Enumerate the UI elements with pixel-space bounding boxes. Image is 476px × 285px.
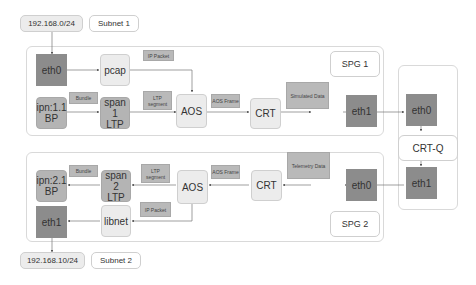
spg2-ltp-line1: span 2 bbox=[102, 170, 130, 192]
spg1-ltp-line2: LTP bbox=[106, 119, 124, 130]
spg1-bp[interactable]: ipn:1.1 BP bbox=[36, 97, 67, 129]
subnet2-ip-tag: 192.168.10/24 bbox=[20, 252, 85, 269]
spg2-ltp-segment-label: LTP segment bbox=[141, 164, 170, 183]
spg2-eth1[interactable]: eth1 bbox=[36, 206, 67, 238]
spg2-aos-frame-label: AOS Frame bbox=[211, 165, 240, 179]
spg1-ip-packet-label: IP Packet bbox=[143, 50, 174, 61]
spg2-aos[interactable]: AOS bbox=[177, 170, 208, 204]
spg2-ltp[interactable]: span 2 LTP bbox=[101, 170, 131, 202]
subnet1-ip-tag: 192.168.0/24 bbox=[20, 15, 83, 32]
spg1-ltp[interactable]: span 1 LTP bbox=[100, 97, 130, 129]
spg1-title: SPG 1 bbox=[330, 51, 380, 77]
spg1-bundle-label: Bundle bbox=[69, 92, 98, 104]
spg2-ip-packet-label: IP Packet bbox=[140, 202, 171, 217]
spg1-eth0[interactable]: eth0 bbox=[36, 54, 67, 86]
spg1-bp-line1: ipn:1.1 bbox=[36, 102, 66, 113]
spg2-crt[interactable]: CRT bbox=[251, 170, 282, 201]
spg1-ltp-line1: span 1 bbox=[101, 97, 129, 119]
crtq-eth1[interactable]: eth1 bbox=[406, 167, 437, 199]
spg2-title: SPG 2 bbox=[330, 211, 380, 237]
subnet1-name-tag: Subnet 1 bbox=[89, 15, 139, 32]
spg2-bundle-label: Bundle bbox=[69, 165, 98, 177]
spg1-pcap[interactable]: pcap bbox=[100, 54, 130, 86]
spg1-ltp-segment-label: LTP segment bbox=[143, 91, 172, 110]
crtq-node[interactable]: CRT-Q bbox=[398, 135, 458, 161]
spg2-bp[interactable]: ipn:2.1 BP bbox=[36, 170, 67, 202]
spg1-aos-frame-label: AOS Frame bbox=[211, 94, 240, 108]
spg1-bp-line2: BP bbox=[45, 113, 58, 124]
spg1-crt[interactable]: CRT bbox=[250, 98, 281, 129]
spg2-bp-line2: BP bbox=[45, 186, 58, 197]
spg2-telemetry-data-label: Telemetry Data bbox=[287, 152, 330, 179]
spg2-eth0[interactable]: eth0 bbox=[346, 169, 377, 201]
spg1-aos[interactable]: AOS bbox=[176, 94, 207, 128]
crtq-eth0[interactable]: eth0 bbox=[406, 94, 437, 126]
spg2-libnet[interactable]: libnet bbox=[101, 205, 131, 237]
subnet2-name-tag: Subnet 2 bbox=[91, 252, 141, 269]
spg2-bp-line1: ipn:2.1 bbox=[36, 175, 66, 186]
spg2-ltp-line2: LTP bbox=[107, 192, 125, 203]
spg1-eth1[interactable]: eth1 bbox=[346, 95, 377, 127]
spg1-simulated-data-label: Simulated Data bbox=[286, 82, 329, 109]
